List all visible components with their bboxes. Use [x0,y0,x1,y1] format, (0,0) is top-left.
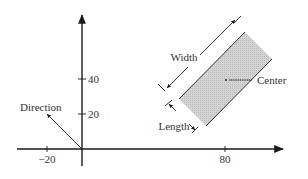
y-axis [78,15,86,166]
x-tick-label-neg20: −20 [38,153,56,165]
center-label: Center [257,74,287,86]
x-tick-label-80: 80 [220,153,232,165]
rectangle-diagram: −20 80 20 40 Direction Center Width Leng… [0,0,308,179]
center-point [225,79,227,81]
width-label: Width [170,51,198,63]
y-tick-label-20: 20 [88,108,100,120]
y-tick-label-40: 40 [88,73,100,85]
length-label: Length [158,120,190,132]
x-axis [17,146,283,152]
direction-arrow [47,114,82,149]
direction-label: Direction [20,101,62,113]
